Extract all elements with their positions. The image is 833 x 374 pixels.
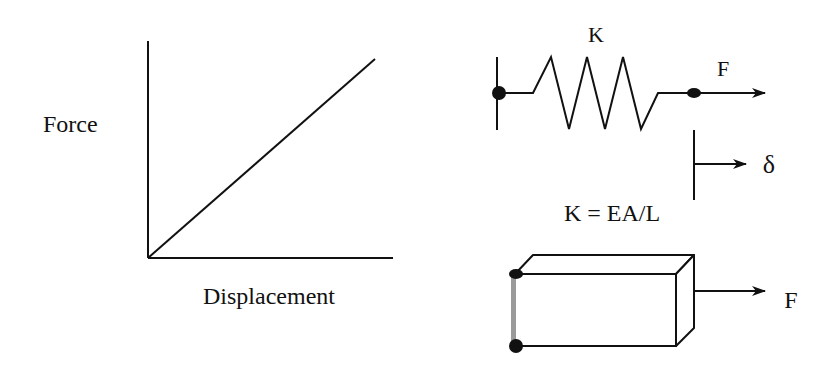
fixed-support-face	[511, 274, 516, 346]
stiffness-label: K	[588, 22, 604, 47]
force-displacement-diagram: Force Displacement K F δ K = EA/L F	[0, 0, 833, 374]
bar-model: F	[509, 255, 798, 353]
linear-response-line	[148, 59, 375, 258]
y-axis-label: Force	[43, 111, 98, 137]
displacement-label: δ	[763, 150, 775, 179]
linear-graph: Force Displacement	[43, 41, 393, 309]
stiffness-formula: K = EA/L	[564, 200, 660, 226]
bar-force-label: F	[784, 287, 797, 313]
x-axis-label: Displacement	[203, 283, 335, 309]
support-node-bottom	[509, 339, 523, 353]
bar-top-face	[515, 255, 694, 274]
bar-front-face	[515, 274, 676, 346]
support-node-top	[509, 269, 523, 279]
spring-model: K F δ K = EA/L	[492, 22, 775, 226]
force-label: F	[717, 56, 729, 81]
spring-zigzag	[499, 57, 694, 129]
